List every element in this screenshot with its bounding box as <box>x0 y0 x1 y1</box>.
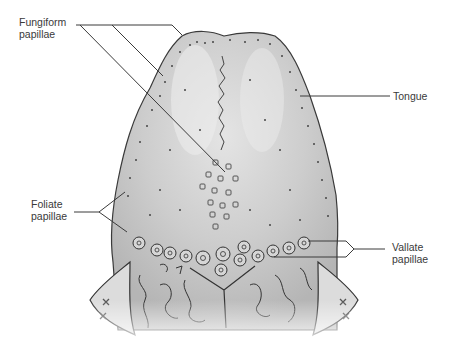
tongue-body <box>112 31 338 330</box>
tongue-illustration <box>0 0 453 348</box>
label-vallate-papillae: Vallate papillae <box>392 241 428 265</box>
label-foliate-papillae: Foliate papillae <box>31 198 67 222</box>
label-tongue: Tongue <box>393 90 427 102</box>
label-fungiform-papillae: Fungiform papillae <box>19 16 66 40</box>
tongue-diagram: Fungiform papillae Tongue Foliate papill… <box>0 0 453 348</box>
